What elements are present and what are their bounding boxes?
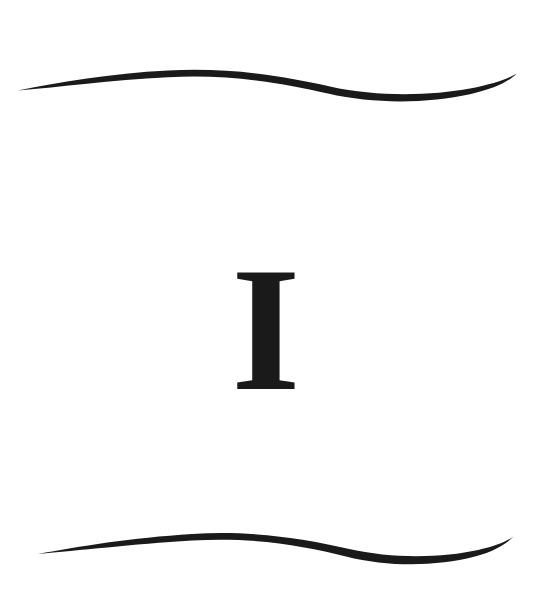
ornamental-letter-plate: I [0,0,547,611]
center-letter: I [231,230,300,428]
plate-canvas: I [0,0,547,611]
